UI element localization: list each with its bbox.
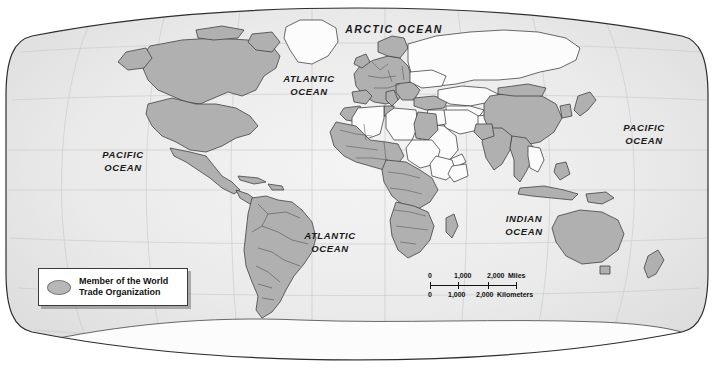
scalebar-pip-1 bbox=[458, 282, 459, 289]
label-atlantic-ocean-north-line2: OCEAN bbox=[290, 86, 328, 97]
scalebar-miles-labels: 0 1,000 2,000 Miles bbox=[428, 272, 540, 281]
scalebar-pip-2 bbox=[488, 282, 489, 289]
map-body bbox=[0, 0, 715, 374]
region-tasmania bbox=[600, 266, 610, 274]
scalebar-miles-tick-1: 1,000 bbox=[454, 272, 472, 279]
legend-label-line2: Trade Organization bbox=[79, 287, 168, 298]
legend-label-line1: Member of the World bbox=[79, 276, 168, 287]
scalebar-pip-3 bbox=[516, 282, 517, 289]
world-map: ARCTIC OCEAN ATLANTIC OCEAN ATLANTIC OCE… bbox=[0, 0, 715, 374]
scalebar-pip-0 bbox=[430, 282, 431, 289]
map-canvas: ARCTIC OCEAN ATLANTIC OCEAN ATLANTIC OCE… bbox=[0, 0, 715, 374]
label-atlantic-ocean-north-line1: ATLANTIC bbox=[282, 73, 335, 84]
scalebar-miles-tick-0: 0 bbox=[428, 272, 432, 279]
legend-swatch-member-icon bbox=[47, 280, 71, 295]
label-pacific-ocean-west-line1: PACIFIC bbox=[102, 149, 144, 160]
label-indian-ocean-line1: INDIAN bbox=[506, 213, 543, 224]
scalebar-miles-unit: Miles bbox=[508, 272, 526, 279]
region-libya bbox=[386, 108, 418, 140]
scalebar-km-tick-0: 0 bbox=[428, 291, 432, 298]
label-atlantic-ocean-south-line2: OCEAN bbox=[311, 243, 349, 254]
map-scalebar: 0 1,000 2,000 Miles 0 1,000 2,000 Kilome… bbox=[428, 272, 540, 306]
scalebar-kilometers-labels: 0 1,000 2,000 Kilometers bbox=[428, 291, 540, 300]
label-pacific-ocean-east-line1: PACIFIC bbox=[623, 122, 665, 133]
scalebar-km-unit: Kilometers bbox=[497, 291, 533, 298]
label-pacific-ocean-east-line2: OCEAN bbox=[625, 135, 663, 146]
region-korea bbox=[560, 104, 572, 118]
scalebar-miles-tick-2: 2,000 bbox=[487, 272, 505, 279]
map-legend: Member of the World Trade Organization bbox=[38, 268, 188, 306]
label-arctic-ocean: ARCTIC OCEAN bbox=[344, 23, 442, 35]
scalebar-km-tick-2: 2,000 bbox=[476, 291, 494, 298]
scalebar-km-tick-1: 1,000 bbox=[448, 291, 466, 298]
scalebar-bar bbox=[428, 282, 540, 290]
label-atlantic-ocean-south-line1: ATLANTIC bbox=[303, 230, 356, 241]
label-indian-ocean-line2: OCEAN bbox=[505, 226, 543, 237]
label-pacific-ocean-west-line2: OCEAN bbox=[104, 162, 142, 173]
legend-label: Member of the World Trade Organization bbox=[79, 276, 168, 298]
scalebar-bar-line bbox=[430, 285, 516, 286]
ocean-fill bbox=[0, 0, 715, 374]
